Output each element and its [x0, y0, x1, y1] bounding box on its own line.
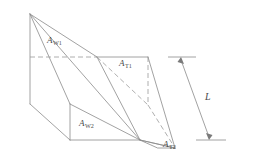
- label-length: L: [205, 92, 211, 102]
- figure-svg: [0, 0, 258, 166]
- edge-right-outer: [148, 57, 175, 148]
- label-area-t1: AT1: [119, 59, 132, 68]
- dimension-arrow-top: [178, 57, 185, 64]
- dimension-arrow-bottom: [206, 133, 213, 140]
- label-area-t2: AT2: [163, 140, 176, 149]
- label-area-w2: AW2: [79, 119, 94, 128]
- label-area-w1: AW1: [47, 36, 62, 45]
- geometry-diagram: AW1 AT1 AW2 AT2 L: [0, 0, 258, 166]
